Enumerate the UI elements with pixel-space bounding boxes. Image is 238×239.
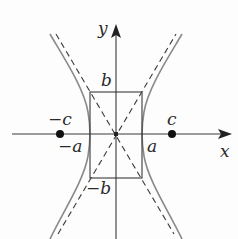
focus-right xyxy=(168,130,176,138)
origin-marker xyxy=(114,132,118,136)
label-neg-a: −a xyxy=(58,138,82,155)
label-b: b xyxy=(101,72,112,89)
label-c: c xyxy=(167,111,177,128)
label-neg-c: −c xyxy=(48,111,72,128)
label-neg-b: −b xyxy=(86,180,111,197)
label-a: a xyxy=(147,138,157,155)
y-axis-label: y xyxy=(98,20,108,37)
hyperbola-diagram: y x b −b a −a c −c xyxy=(0,0,238,239)
x-axis-label: x xyxy=(220,143,230,160)
diagram-graphics xyxy=(0,0,238,239)
